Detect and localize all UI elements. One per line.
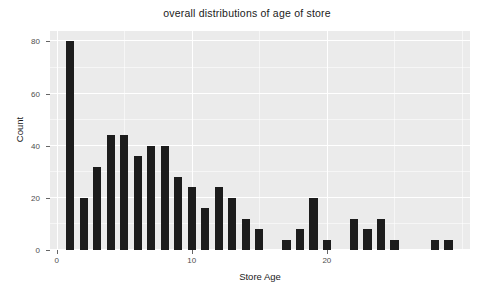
bar xyxy=(431,240,439,250)
y-tick-mark xyxy=(46,198,50,199)
bar xyxy=(147,146,155,250)
bar xyxy=(377,219,385,250)
bar xyxy=(66,41,74,250)
x-tick-mark xyxy=(327,250,328,254)
bar xyxy=(228,198,236,250)
bar xyxy=(444,240,452,250)
y-tick-label: 80 xyxy=(31,37,40,46)
gridline-x-minor xyxy=(462,31,463,250)
bar xyxy=(93,167,101,250)
y-tick-mark xyxy=(46,41,50,42)
y-tick-label: 20 xyxy=(31,193,40,202)
x-axis-label: Store Age xyxy=(50,271,470,282)
bar xyxy=(107,135,115,250)
gridline-x-major xyxy=(327,31,328,250)
y-tick-label: 40 xyxy=(31,141,40,150)
bar xyxy=(134,156,142,250)
bar xyxy=(201,208,209,250)
gridline-x-major xyxy=(57,31,58,250)
y-tick-label: 0 xyxy=(36,246,40,255)
gridline-x-minor xyxy=(259,31,260,250)
bar xyxy=(255,229,263,250)
x-tick-label: 0 xyxy=(55,256,59,265)
bar xyxy=(350,219,358,250)
bar xyxy=(161,146,169,250)
bar xyxy=(120,135,128,250)
plot-panel xyxy=(50,31,470,250)
bar xyxy=(363,229,371,250)
bar xyxy=(242,219,250,250)
gridline-x-minor xyxy=(394,31,395,250)
bar xyxy=(282,240,290,250)
y-tick-mark xyxy=(46,146,50,147)
x-tick-label: 20 xyxy=(322,256,331,265)
chart-title: overall distributions of age of store xyxy=(0,7,494,19)
bar xyxy=(188,187,196,250)
bar xyxy=(309,198,317,250)
chart-figure: overall distributions of age of store St… xyxy=(0,0,494,299)
bar xyxy=(296,229,304,250)
y-tick-label: 60 xyxy=(31,89,40,98)
y-tick-mark xyxy=(46,250,50,251)
bar xyxy=(174,177,182,250)
bar xyxy=(390,240,398,250)
y-axis-label: Count xyxy=(14,100,25,160)
bar xyxy=(215,187,223,250)
x-tick-mark xyxy=(57,250,58,254)
y-tick-mark xyxy=(46,94,50,95)
bar xyxy=(80,198,88,250)
bar xyxy=(323,240,331,250)
x-tick-label: 10 xyxy=(187,256,196,265)
x-tick-mark xyxy=(192,250,193,254)
